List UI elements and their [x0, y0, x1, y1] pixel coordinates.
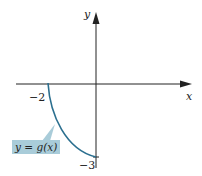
callout-label: y = g(x)	[14, 141, 57, 153]
x-axis-arrow-icon	[180, 81, 192, 88]
y-axis-label: y	[83, 8, 91, 21]
y-axis-arrow-icon	[93, 12, 100, 24]
callout-pointer	[42, 124, 55, 141]
tick-label-y-neg3: −3	[79, 159, 95, 172]
tick-label-x-neg2: −2	[29, 91, 45, 104]
x-axis-label: x	[186, 90, 193, 103]
graph: y x −2 −3 y = g(x)	[0, 0, 202, 176]
